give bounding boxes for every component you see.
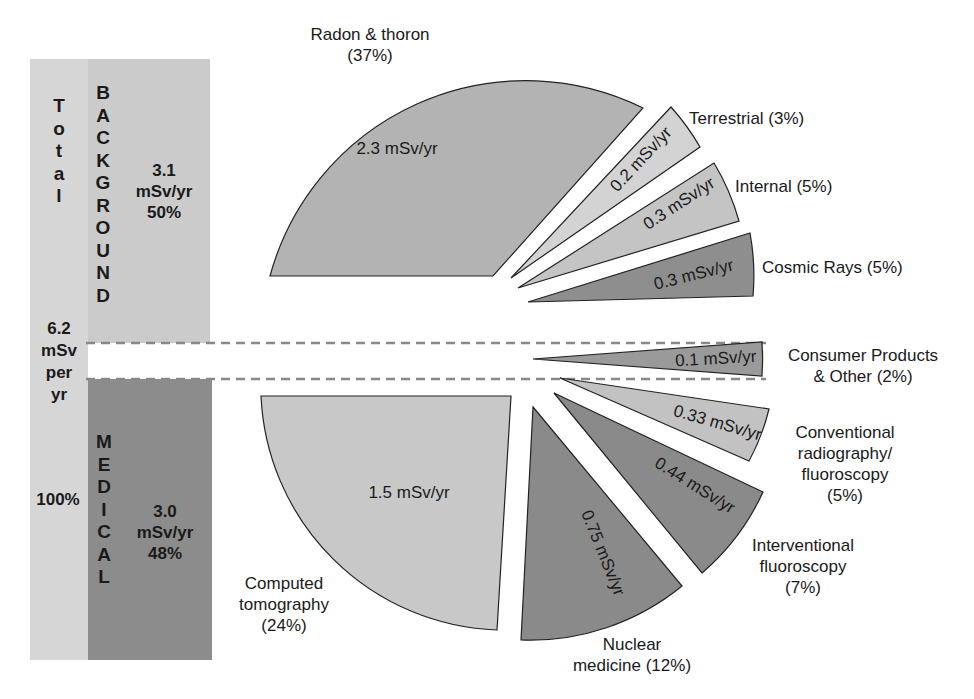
nuclear-label-line: medicine (12%) bbox=[568, 655, 696, 676]
conventional-label: Conventional radiography/ fluoroscopy (5… bbox=[786, 422, 904, 506]
interventional-label: Interventional fluoroscopy (7%) bbox=[740, 535, 866, 598]
nuclear-label: Nuclear medicine (12%) bbox=[568, 634, 696, 676]
internal-label: Internal (5%) bbox=[735, 176, 832, 197]
consumer-label-line: Consumer Products bbox=[768, 345, 958, 366]
ct-value: 1.5 mSv/yr bbox=[368, 483, 450, 502]
ct-label: Computed tomography (24%) bbox=[226, 573, 342, 636]
interventional-label-line: fluoroscopy bbox=[740, 556, 866, 577]
consumer-label: Consumer Products & Other (2%) bbox=[768, 345, 958, 387]
conventional-label-line: radiography/ bbox=[786, 443, 904, 464]
radon-label-line: (37%) bbox=[290, 45, 450, 66]
ct-label-line: (24%) bbox=[226, 615, 342, 636]
interventional-label-line: (7%) bbox=[740, 577, 866, 598]
radon-label-line: Radon & thoron bbox=[290, 24, 450, 45]
ct-label-line: tomography bbox=[226, 594, 342, 615]
radon-value: 2.3 mSv/yr bbox=[356, 139, 438, 158]
radon-label: Radon & thoron (37%) bbox=[290, 24, 450, 66]
ct-label-line: Computed bbox=[226, 573, 342, 594]
interventional-label-line: Interventional bbox=[740, 535, 866, 556]
nuclear-label-line: Nuclear bbox=[568, 634, 696, 655]
conventional-label-line: Conventional bbox=[786, 422, 904, 443]
terrestrial-label: Terrestrial (3%) bbox=[689, 108, 804, 129]
consumer-label-line: & Other (2%) bbox=[768, 366, 958, 387]
conventional-label-line: fluoroscopy bbox=[786, 464, 904, 485]
conventional-label-line: (5%) bbox=[786, 485, 904, 506]
cosmic-label: Cosmic Rays (5%) bbox=[762, 257, 903, 278]
